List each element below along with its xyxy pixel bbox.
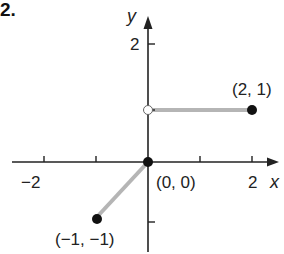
- segment-neg1-to-origin: [96, 162, 148, 218]
- point-label-origin: (0, 0): [156, 173, 196, 192]
- x-tick-label-2: 2: [248, 173, 257, 192]
- y-axis: [144, 16, 156, 252]
- point-neg1-neg1: [92, 214, 102, 224]
- y-tick-label-2: 2: [130, 35, 139, 54]
- x-axis-arrow-icon: [267, 158, 279, 167]
- point-origin: [143, 157, 153, 167]
- piecewise-function-graph: y 2 −2 2 x (2, 1) (0, 0) (−1, −1): [0, 0, 284, 254]
- open-point-0-1: [144, 106, 153, 115]
- x-tick-label-neg2: −2: [21, 173, 40, 192]
- y-axis-arrow-icon: [144, 16, 153, 29]
- point-label-2-1: (2, 1): [232, 80, 272, 99]
- y-axis-label: y: [125, 6, 137, 26]
- point-label-neg1-neg1: (−1, −1): [55, 230, 115, 249]
- point-2-1: [247, 105, 257, 115]
- x-axis-label: x: [269, 172, 280, 192]
